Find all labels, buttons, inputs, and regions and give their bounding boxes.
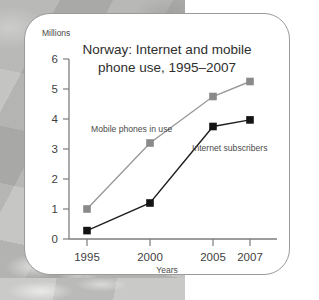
x-tick-label-1995: 1995 <box>74 251 100 263</box>
x-axis-ticks <box>87 239 250 246</box>
y-tick-label-1: 1 <box>52 203 58 215</box>
x-tick-label-2005: 2005 <box>200 251 226 263</box>
y-tick-label-0: 0 <box>52 233 58 245</box>
x-tick-label-2000: 2000 <box>137 251 163 263</box>
series-annotation-internet-subscribers: Internet subscribers <box>192 143 267 153</box>
y-tick-label-3: 3 <box>52 143 58 155</box>
chart-title-line-1: Norway: Internet and mobile <box>83 42 252 57</box>
chart-card: Millions Norway: Internet and mobile pho… <box>24 13 290 275</box>
y-tick-label-6: 6 <box>52 53 58 65</box>
y-tick-label-2: 2 <box>52 173 58 185</box>
series-annotation-mobile-phones: Mobile phones in use <box>91 124 172 134</box>
y-axis-units-label: Millions <box>42 28 70 38</box>
y-axis-ticks <box>63 59 69 239</box>
series-line-internet-subscribers <box>87 120 250 231</box>
y-tick-label-4: 4 <box>52 113 59 125</box>
y-tick-label-5: 5 <box>52 83 58 95</box>
x-axis-caption: Years <box>156 265 177 275</box>
line-chart: Millions Norway: Internet and mobile pho… <box>25 14 291 276</box>
chart-title-line-2: phone use, 1995–2007 <box>98 60 236 75</box>
x-tick-label-2007: 2007 <box>237 251 263 263</box>
paper-background-lower <box>0 278 185 300</box>
